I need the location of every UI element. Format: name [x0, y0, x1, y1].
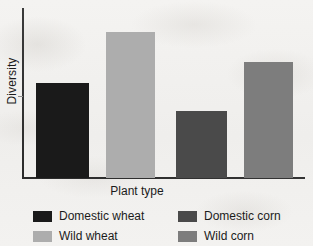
legend-item-label: Wild corn — [204, 230, 254, 242]
legend-item-label: Wild wheat — [59, 230, 118, 242]
legend-item-label: Domestic wheat — [59, 210, 144, 222]
y-axis-line — [22, 8, 24, 178]
bar-wild-wheat — [106, 32, 155, 178]
chart-legend: Domestic wheat Domestic corn Wild wheat … — [33, 206, 305, 246]
bar-wild-corn — [244, 62, 293, 178]
bar-chart: Diversity Plant type Domestic wheat Dome… — [0, 0, 313, 246]
bar-domestic-corn — [176, 111, 227, 178]
legend-item-domestic-corn: Domestic corn — [178, 210, 308, 222]
bar-fill — [106, 32, 155, 178]
bar-fill — [176, 111, 227, 178]
x-axis-title: Plant type — [22, 184, 252, 198]
legend-item-wild-wheat: Wild wheat — [33, 230, 178, 242]
bar-fill — [36, 83, 89, 178]
legend-swatch-icon — [33, 231, 52, 242]
legend-swatch-icon — [33, 211, 52, 222]
y-axis-title: Diversity — [5, 45, 19, 117]
legend-item-domestic-wheat: Domestic wheat — [33, 210, 178, 222]
bar-fill — [244, 62, 293, 178]
legend-swatch-icon — [178, 231, 197, 242]
bar-domestic-wheat — [36, 83, 89, 178]
legend-swatch-icon — [178, 211, 197, 222]
legend-item-label: Domestic corn — [204, 210, 281, 222]
legend-item-wild-corn: Wild corn — [178, 230, 308, 242]
